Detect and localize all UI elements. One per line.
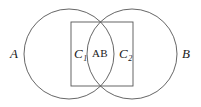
label-intersection-ab: AB [92, 48, 108, 59]
label-circle-a: A [10, 47, 18, 60]
label-region-c1-subscript: 1 [83, 54, 87, 63]
label-region-c2: C2 [119, 47, 132, 60]
label-region-c2-subscript: 2 [128, 54, 132, 63]
venn-diagram-figure: A C1 AB C2 B [0, 0, 201, 107]
label-region-c2-base: C [119, 46, 128, 61]
label-circle-b: B [182, 47, 190, 60]
label-region-c1: C1 [74, 47, 87, 60]
label-region-c1-base: C [74, 46, 83, 61]
